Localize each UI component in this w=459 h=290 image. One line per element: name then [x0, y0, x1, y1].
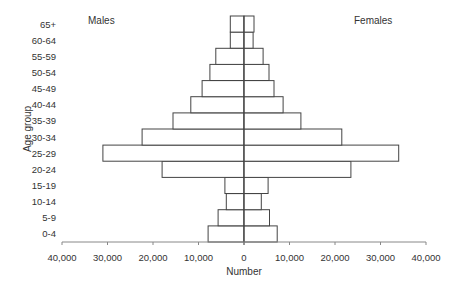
population-pyramid-chart: 40,00030,00020,00010,000010,00020,00030,…	[0, 0, 459, 290]
x-tick-label: 10,000	[275, 252, 304, 263]
bar-males-40-44	[191, 97, 244, 113]
x-tick-label: 30,000	[93, 252, 122, 263]
bar-females-45-49	[244, 81, 274, 97]
x-tick-label: 20,000	[320, 252, 349, 263]
bar-females-35-39	[244, 113, 301, 129]
bar-males-65+	[230, 16, 244, 32]
bar-females-25-29	[244, 145, 399, 161]
bar-males-15-19	[225, 177, 244, 193]
bar-females-55-59	[244, 48, 263, 64]
y-tick-label: 10-14	[32, 196, 56, 207]
x-tick-label: 0	[241, 252, 246, 263]
x-tick-label: 30,000	[366, 252, 395, 263]
bar-females-5-9	[244, 210, 270, 226]
females-label: Females	[354, 15, 392, 26]
y-tick-label: 15-19	[32, 180, 56, 191]
x-axis-ticks: 40,00030,00020,00010,000010,00020,00030,…	[47, 242, 440, 263]
bar-females-40-44	[244, 97, 283, 113]
y-tick-label: 25-29	[32, 148, 56, 159]
x-axis-title: Number	[226, 266, 262, 277]
y-tick-label: 60-64	[32, 35, 56, 46]
bar-males-0-4	[208, 226, 244, 242]
y-tick-label: 65+	[40, 19, 57, 30]
y-tick-label: 45-49	[32, 83, 56, 94]
bar-males-25-29	[103, 145, 244, 161]
y-tick-label: 35-39	[32, 115, 56, 126]
bar-males-35-39	[173, 113, 244, 129]
y-tick-label: 55-59	[32, 51, 56, 62]
bar-females-65+	[244, 16, 254, 32]
bar-females-15-19	[244, 177, 268, 193]
x-tick-label: 40,000	[47, 252, 76, 263]
x-tick-label: 10,000	[184, 252, 213, 263]
y-tick-label: 0-4	[42, 228, 56, 239]
y-tick-label: 5-9	[42, 212, 56, 223]
bar-females-60-64	[244, 32, 253, 48]
y-tick-label: 50-54	[32, 67, 56, 78]
bar-females-50-54	[244, 64, 269, 80]
bar-males-30-34	[142, 129, 244, 145]
x-tick-label: 20,000	[138, 252, 167, 263]
bar-males-45-49	[202, 81, 244, 97]
bar-females-0-4	[244, 226, 277, 242]
bar-males-55-59	[216, 48, 244, 64]
bar-females-20-24	[244, 161, 351, 177]
bar-females-10-14	[244, 194, 261, 210]
y-axis-title: Age group	[22, 105, 33, 152]
bar-females-30-34	[244, 129, 342, 145]
bar-males-60-64	[230, 32, 244, 48]
y-axis-labels: 0-45-910-1415-1920-2425-2930-3435-3940-4…	[32, 19, 57, 240]
x-tick-label: 40,000	[411, 252, 440, 263]
y-tick-label: 40-44	[32, 99, 56, 110]
bar-males-50-54	[210, 64, 244, 80]
y-tick-label: 20-24	[32, 164, 56, 175]
bar-males-20-24	[162, 161, 244, 177]
males-bars	[103, 16, 244, 242]
bar-males-5-9	[218, 210, 244, 226]
females-bars	[244, 16, 399, 242]
bar-males-10-14	[226, 194, 244, 210]
y-tick-label: 30-34	[32, 132, 56, 143]
males-label: Males	[88, 15, 115, 26]
